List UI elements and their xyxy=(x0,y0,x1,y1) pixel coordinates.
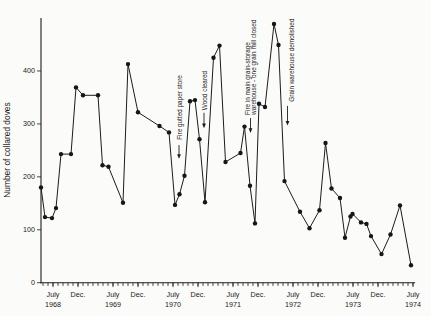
svg-text:Dec.: Dec. xyxy=(71,290,86,299)
data-point xyxy=(323,141,327,145)
svg-text:July: July xyxy=(407,290,420,299)
data-point xyxy=(282,179,286,183)
svg-text:300: 300 xyxy=(23,119,35,128)
y-axis-ticks: 0100200300400 xyxy=(23,66,41,287)
data-point xyxy=(81,93,85,97)
svg-text:July: July xyxy=(347,290,360,299)
data-point xyxy=(173,203,177,207)
data-point xyxy=(203,200,207,204)
dove-population-line-chart: 0100200300400Number of collared dovesJul… xyxy=(0,0,431,316)
data-point xyxy=(242,124,246,128)
data-point xyxy=(223,160,227,164)
svg-text:Dec.: Dec. xyxy=(371,290,386,299)
data-point xyxy=(364,222,368,226)
data-point xyxy=(177,192,181,196)
svg-text:Dec.: Dec. xyxy=(131,290,146,299)
x-axis-labels: July1968Dec.July1969Dec.July1970Dec.July… xyxy=(45,283,421,309)
data-point xyxy=(343,236,347,240)
svg-text:1972: 1972 xyxy=(285,300,301,309)
svg-text:July: July xyxy=(287,290,300,299)
data-point xyxy=(298,210,302,214)
data-point xyxy=(43,215,47,219)
svg-text:100: 100 xyxy=(23,225,35,234)
data-point xyxy=(350,212,354,216)
data-point xyxy=(167,130,171,134)
data-point xyxy=(398,203,402,207)
data-point xyxy=(69,152,73,156)
data-point xyxy=(39,185,43,189)
svg-text:July: July xyxy=(227,290,240,299)
collared-doves-figure: 0100200300400Number of collared dovesJul… xyxy=(0,0,431,316)
svg-text:warehouse - one grain mill clo: warehouse - one grain mill closed xyxy=(250,19,258,116)
svg-text:Dec.: Dec. xyxy=(311,290,326,299)
data-point xyxy=(307,226,311,230)
data-point xyxy=(193,98,197,102)
svg-text:Dec.: Dec. xyxy=(191,290,206,299)
data-point xyxy=(157,124,161,128)
data-point xyxy=(369,234,373,238)
svg-text:Number of collared doves: Number of collared doves xyxy=(2,102,12,197)
y-axis-label: Number of collared doves xyxy=(2,102,12,197)
svg-text:July: July xyxy=(167,290,180,299)
annotation-0: Fire gutted paper store xyxy=(176,75,184,159)
data-point xyxy=(272,22,276,26)
data-point xyxy=(50,216,54,220)
data-point xyxy=(106,165,110,169)
data-point xyxy=(253,221,257,225)
data-point xyxy=(100,163,104,167)
data-point xyxy=(388,232,392,236)
data-point xyxy=(379,252,383,256)
data-point xyxy=(217,43,221,47)
data-point xyxy=(188,99,192,103)
data-point xyxy=(317,208,321,212)
annotation-2: Fire in main grain-storagewarehouse - on… xyxy=(244,19,259,133)
data-point xyxy=(338,196,342,200)
svg-text:1970: 1970 xyxy=(165,300,181,309)
data-point xyxy=(96,93,100,97)
data-point xyxy=(197,137,201,141)
svg-text:1973: 1973 xyxy=(345,300,361,309)
data-point xyxy=(59,152,63,156)
data-point xyxy=(182,174,186,178)
data-point xyxy=(238,151,242,155)
annotation-3: Grain warehouse demolished xyxy=(286,18,295,125)
data-point xyxy=(257,102,261,106)
data-point xyxy=(211,56,215,60)
svg-text:0: 0 xyxy=(31,278,35,287)
svg-text:Fire gutted paper store: Fire gutted paper store xyxy=(176,75,184,140)
data-point xyxy=(248,184,252,188)
svg-text:200: 200 xyxy=(23,172,35,181)
svg-text:1969: 1969 xyxy=(105,300,121,309)
data-point xyxy=(136,110,140,114)
svg-text:1968: 1968 xyxy=(45,300,61,309)
svg-text:1971: 1971 xyxy=(225,300,241,309)
data-point xyxy=(329,186,333,190)
data-point xyxy=(263,105,267,109)
svg-text:1974: 1974 xyxy=(405,300,421,309)
data-point xyxy=(359,220,363,224)
data-point xyxy=(74,85,78,89)
data-point xyxy=(121,201,125,205)
svg-text:400: 400 xyxy=(23,66,35,75)
data-point xyxy=(54,206,58,210)
svg-text:Dec.: Dec. xyxy=(251,290,266,299)
svg-text:Grain warehouse demolished: Grain warehouse demolished xyxy=(288,18,295,102)
svg-text:July: July xyxy=(107,290,120,299)
svg-text:Wood cleared: Wood cleared xyxy=(201,70,208,110)
data-point xyxy=(409,263,413,267)
svg-text:July: July xyxy=(47,290,60,299)
data-point xyxy=(126,62,130,66)
data-point xyxy=(276,43,280,47)
axes xyxy=(41,18,416,283)
annotation-1: Wood cleared xyxy=(201,70,208,128)
data-series xyxy=(39,22,413,268)
